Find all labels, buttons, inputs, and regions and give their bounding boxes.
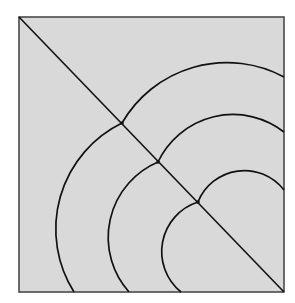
inner-cusp-point xyxy=(196,200,200,204)
middle-cusp-point xyxy=(156,160,160,164)
outer-cusp-point xyxy=(120,121,124,125)
geometric-diagram xyxy=(0,0,295,303)
